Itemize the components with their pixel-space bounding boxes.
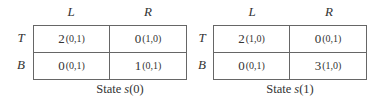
- cell-b-l: 0(0,1): [34, 53, 110, 80]
- cell-t-l: 2(0,1): [34, 26, 110, 53]
- cell-t-r: 0(0,1): [290, 26, 366, 53]
- payoff-matrix: 2(0,1) 0(1,0) 0(0,1) 1(0,1): [33, 25, 187, 80]
- caption: State s(0): [80, 82, 160, 97]
- payoff-matrix: 2(1,0) 0(0,1) 0(0,1) 3(1,0): [213, 25, 367, 80]
- col-label-l: L: [61, 4, 81, 20]
- cell-t-l: 2(1,0): [214, 26, 290, 53]
- row-label-b: B: [195, 57, 209, 73]
- row-label-t: T: [195, 30, 209, 46]
- col-label-l: L: [242, 4, 262, 20]
- caption: State s(1): [250, 82, 330, 97]
- row-label-t: T: [14, 30, 28, 46]
- col-label-r: R: [319, 4, 339, 20]
- cell-b-r: 3(1,0): [290, 53, 366, 80]
- cell-b-l: 0(0,1): [214, 53, 290, 80]
- col-label-r: R: [138, 4, 158, 20]
- cell-t-r: 0(1,0): [110, 26, 186, 53]
- row-label-b: B: [14, 57, 28, 73]
- cell-b-r: 1(0,1): [110, 53, 186, 80]
